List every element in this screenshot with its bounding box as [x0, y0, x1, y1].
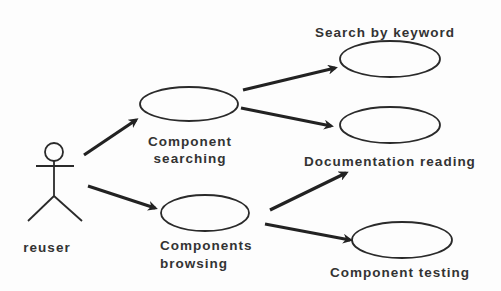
use-case-ellipse [161, 195, 249, 231]
actor-head [45, 143, 63, 161]
diagram-svg: reuser Component searching Search by key… [0, 0, 501, 291]
arrow-browsing-to-documentation [270, 173, 346, 210]
use-case-label: browsing [160, 256, 228, 271]
use-case-components-browsing[interactable]: Components browsing [160, 195, 253, 271]
use-case-search-by-keyword[interactable]: Search by keyword [315, 25, 455, 77]
use-case-label: Documentation reading [304, 154, 476, 169]
use-case-label: Search by keyword [315, 25, 455, 40]
actor-label: reuser [23, 240, 70, 255]
use-case-ellipse [340, 107, 440, 143]
use-case-ellipse [140, 87, 238, 121]
use-case-label: Component testing [330, 265, 470, 280]
arrow-reuser-to-component-searching [84, 120, 136, 155]
use-case-label: Component [148, 134, 232, 149]
arrow-reuser-to-components-browsing [88, 186, 155, 208]
actor-left-leg [28, 196, 54, 221]
use-case-label: searching [154, 151, 227, 166]
actor-reuser[interactable]: reuser [23, 143, 82, 255]
arrow-browsing-to-testing [265, 224, 350, 240]
arrow-searching-to-keyword [243, 68, 335, 90]
use-case-component-testing[interactable]: Component testing [330, 222, 470, 280]
use-case-diagram: reuser Component searching Search by key… [0, 0, 501, 291]
use-case-ellipse [352, 222, 452, 258]
use-case-component-searching[interactable]: Component searching [140, 87, 238, 166]
actor-right-leg [54, 196, 82, 221]
use-case-label: Components [160, 238, 253, 253]
arrow-searching-to-documentation [241, 108, 331, 126]
use-case-ellipse [340, 41, 440, 77]
use-case-documentation-reading[interactable]: Documentation reading [304, 107, 476, 169]
